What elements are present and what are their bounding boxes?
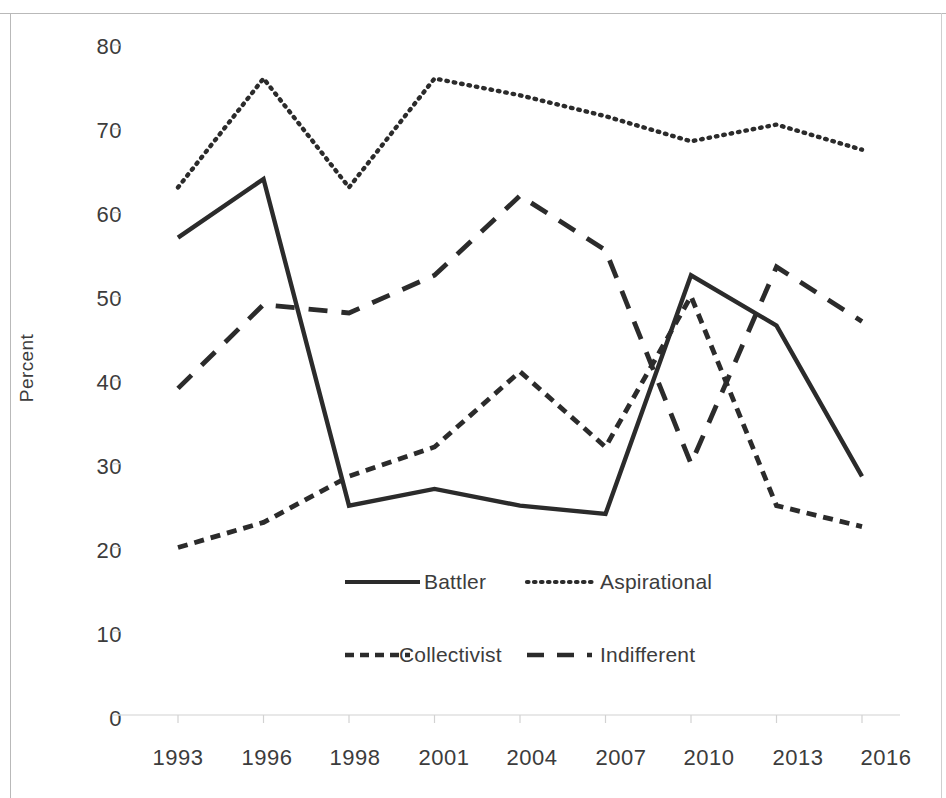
legend-label-indifferent: Indifferent: [600, 643, 695, 667]
legend-label-aspirational: Aspirational: [600, 570, 712, 594]
chart-figure: Percent 80 70 60 50 40 30 20 10 0 1993 1…: [0, 0, 946, 798]
legend-swatches: [0, 0, 946, 798]
legend-label-battler: Battler: [424, 570, 486, 594]
legend-label-collectivist: Collectivist: [399, 643, 502, 667]
